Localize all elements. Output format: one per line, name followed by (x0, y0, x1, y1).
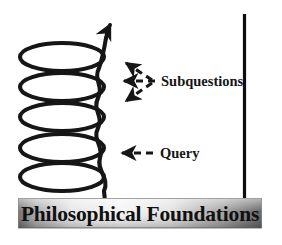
diagram-canvas: Subquestions Query Philosophical Foundat… (0, 0, 282, 245)
upward-helix (20, 25, 110, 204)
helix-coil-5 (20, 43, 104, 71)
foundations-banner: Philosophical Foundations (19, 199, 262, 229)
helix-arrowhead-up (106, 25, 110, 38)
query-annotation: Query (122, 145, 200, 161)
philosophical-foundations-diagram: Subquestions Query Philosophical Foundat… (0, 0, 282, 245)
subquestions-arrow-top (126, 63, 152, 80)
subquestions-annotation: Subquestions (124, 63, 244, 101)
helix-coil-1 (20, 163, 104, 191)
helix-coil-4 (20, 73, 104, 101)
subquestions-arrow-bottom (126, 83, 152, 101)
helix-coil-2 (20, 134, 104, 162)
query-label: Query (160, 145, 200, 161)
subquestions-label: Subquestions (161, 73, 244, 89)
helix-coil-3 (20, 103, 104, 131)
banner-title: Philosophical Foundations (21, 202, 259, 226)
